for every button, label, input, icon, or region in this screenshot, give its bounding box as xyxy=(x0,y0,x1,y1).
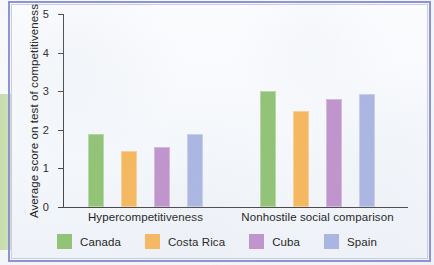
y-tick: 4 xyxy=(58,53,64,54)
legend-item-spain[interactable]: Spain xyxy=(324,234,377,249)
legend-swatch-icon xyxy=(324,234,339,249)
legend-item-costa-rica[interactable]: Costa Rica xyxy=(145,234,225,249)
bar-cuba-1 xyxy=(154,147,170,207)
y-tick: 0 xyxy=(58,207,64,208)
legend-item-canada[interactable]: Canada xyxy=(57,234,121,249)
figure-container: Average score on test of competitiveness… xyxy=(0,0,434,265)
x-axis-label-1: Hypercompetitiveness xyxy=(88,211,203,223)
x-axis-label-2: Nonhostile social comparison xyxy=(241,211,393,223)
legend-label: Spain xyxy=(347,236,377,248)
legend-swatch-icon xyxy=(249,234,264,249)
y-tick-label: 1 xyxy=(43,162,49,174)
y-tick-label: 4 xyxy=(43,47,49,59)
y-tick-label: 0 xyxy=(43,201,49,213)
bar-canada-2 xyxy=(260,91,276,207)
bar-costa-rica-2 xyxy=(293,111,309,208)
bar-cuba-2 xyxy=(326,99,342,207)
y-tick-label: 3 xyxy=(43,85,49,97)
legend-label: Costa Rica xyxy=(168,236,225,248)
bar-spain-1 xyxy=(187,134,203,207)
legend-swatch-icon xyxy=(145,234,160,249)
y-tick: 1 xyxy=(58,168,64,169)
y-tick-label: 5 xyxy=(43,8,49,20)
y-axis-title-text: Average score on test of competitiveness xyxy=(28,3,40,217)
legend-label: Cuba xyxy=(272,236,300,248)
bar-canada-1 xyxy=(88,134,104,207)
bar-costa-rica-1 xyxy=(121,151,137,207)
x-axis-line xyxy=(63,207,408,208)
y-axis-title: Average score on test of competitiveness xyxy=(26,14,42,207)
bar-spain-2 xyxy=(359,94,375,207)
y-tick-label: 2 xyxy=(43,124,49,136)
legend-swatch-icon xyxy=(57,234,72,249)
legend-item-cuba[interactable]: Cuba xyxy=(249,234,300,249)
y-axis-line xyxy=(63,14,64,207)
y-tick: 2 xyxy=(58,130,64,131)
plot-area: 012345 xyxy=(63,14,408,207)
y-tick: 3 xyxy=(58,91,64,92)
chart-legend: CanadaCosta RicaCubaSpain xyxy=(0,234,434,249)
y-tick: 5 xyxy=(58,14,64,15)
legend-label: Canada xyxy=(80,236,121,248)
